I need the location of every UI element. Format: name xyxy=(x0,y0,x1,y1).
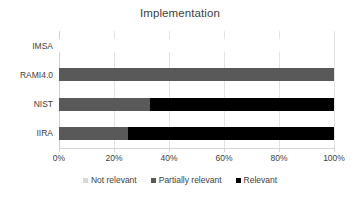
legend-item-label: Not relevant xyxy=(91,175,137,185)
tick-mark xyxy=(279,148,280,152)
bar-band xyxy=(59,31,334,60)
legend-swatch-icon xyxy=(236,178,241,183)
legend-item[interactable]: Relevant xyxy=(236,175,278,185)
tick-mark xyxy=(114,148,115,152)
bar-band xyxy=(59,90,334,119)
bar-segment[interactable] xyxy=(128,127,334,140)
chart-legend: Not relevantPartially relevantRelevant xyxy=(0,175,360,185)
legend-item-label: Partially relevant xyxy=(159,175,222,185)
plot-area xyxy=(59,31,334,148)
stacked-bar[interactable] xyxy=(59,39,334,52)
x-axis-tick-label: 60% xyxy=(215,153,232,163)
tick-mark xyxy=(334,148,335,152)
bar-segment[interactable] xyxy=(59,127,128,140)
x-axis-tick-labels: 0%20%40%60%80%100% xyxy=(59,153,334,165)
bar-segment[interactable] xyxy=(59,39,334,52)
x-axis-tick-label: 20% xyxy=(105,153,122,163)
stacked-bar[interactable] xyxy=(59,98,334,111)
y-axis-category-label: IIRA xyxy=(0,119,53,148)
legend-item-label: Relevant xyxy=(244,175,278,185)
x-axis-tick-label: 0% xyxy=(53,153,65,163)
bar-band xyxy=(59,119,334,148)
bar-segment[interactable] xyxy=(59,98,150,111)
y-axis-category-label: NIST xyxy=(0,90,53,119)
legend-swatch-icon xyxy=(151,178,156,183)
bar-segment[interactable] xyxy=(59,68,334,81)
y-axis-category-label: IMSA xyxy=(0,31,53,60)
x-axis-tick-label: 100% xyxy=(323,153,345,163)
legend-item[interactable]: Not relevant xyxy=(83,175,137,185)
gridline xyxy=(334,31,335,148)
x-axis-tick-marks xyxy=(59,148,334,152)
stacked-bar[interactable] xyxy=(59,68,334,81)
bar-band xyxy=(59,60,334,89)
tick-mark xyxy=(169,148,170,152)
chart-container: Implementation IMSARAMI4.0NISTIIRA 0%20%… xyxy=(0,0,360,198)
stacked-bar[interactable] xyxy=(59,127,334,140)
tick-mark xyxy=(224,148,225,152)
x-axis-tick-label: 80% xyxy=(270,153,287,163)
x-axis-tick-label: 40% xyxy=(160,153,177,163)
y-axis-category-label: RAMI4.0 xyxy=(0,60,53,89)
chart-title: Implementation xyxy=(0,7,360,19)
tick-mark xyxy=(59,148,60,152)
bar-segment[interactable] xyxy=(150,98,334,111)
legend-item[interactable]: Partially relevant xyxy=(151,175,222,185)
legend-swatch-icon xyxy=(83,178,88,183)
y-axis-category-labels: IMSARAMI4.0NISTIIRA xyxy=(0,31,53,148)
